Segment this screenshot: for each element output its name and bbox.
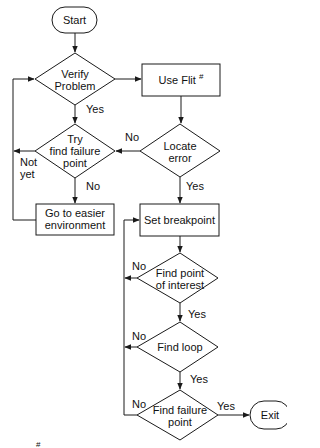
exit-text: Exit [261, 409, 279, 421]
poi-yes-label: Yes [188, 308, 206, 320]
poi-line2: of interest [145, 279, 215, 291]
not-yet-label: Not yet [20, 156, 37, 180]
try-line1: Try [40, 133, 110, 145]
easier-line1: Go to easier [36, 207, 114, 219]
locate-line1: Locate [150, 140, 210, 152]
try-no-label: No [86, 180, 100, 192]
verify-problem-label: Verify Problem [45, 68, 105, 92]
try-line3: point [40, 157, 110, 169]
failure-line1: Find failure [143, 404, 217, 416]
failure-line2: point [143, 416, 217, 428]
verify-yes-label: Yes [86, 103, 104, 115]
use-flit-text: Use Flit # [159, 74, 204, 86]
poi-no-label: No [132, 260, 146, 272]
try-line2: find failure [40, 145, 110, 157]
try-find-failure-label: Try find failure point [40, 133, 110, 169]
footnote-mark: # [199, 72, 203, 81]
poi-line1: Find point [145, 267, 215, 279]
verify-line1: Verify [45, 68, 105, 80]
loop-yes-label: Yes [190, 373, 208, 385]
not-yet-line1: Not [20, 156, 37, 168]
locate-line2: error [150, 152, 210, 164]
start-label: Start [52, 7, 97, 33]
find-failure-point-label: Find failure point [143, 404, 217, 428]
footnote-marker: # [36, 439, 40, 448]
find-loop-label: Find loop [145, 341, 215, 353]
locate-error-label: Locate error [150, 140, 210, 164]
not-yet-line2: yet [20, 168, 37, 180]
loop-no-label: No [132, 330, 146, 342]
use-flit-label: Use Flit # [142, 64, 220, 96]
exit-label: Exit [250, 401, 287, 429]
verify-line2: Problem [45, 80, 105, 92]
start-text: Start [63, 14, 86, 26]
locate-no-label: No [125, 131, 139, 143]
use-flit-main: Use Flit [159, 74, 196, 86]
failure-no-label: No [132, 398, 146, 410]
set-breakpoint-label: Set breakpoint [140, 204, 219, 236]
failure-yes-label: Yes [217, 400, 235, 412]
point-of-interest-label: Find point of interest [145, 267, 215, 291]
find-loop-text: Find loop [145, 341, 215, 353]
locate-yes-label: Yes [186, 180, 204, 192]
easier-line2: environment [36, 219, 114, 231]
easier-environment-label: Go to easier environment [36, 207, 114, 231]
set-breakpoint-text: Set breakpoint [144, 214, 215, 226]
